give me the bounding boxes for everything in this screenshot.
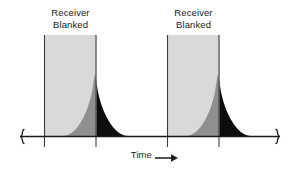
receiver-blanked-label-1-line2: Blanked <box>44 19 97 31</box>
receiver-blanked-label-1-line1: Receiver <box>44 7 97 19</box>
receiver-blanked-label-2-line1: Receiver <box>167 7 220 19</box>
time-axis-label: Time <box>108 149 152 161</box>
receiver-blanking-figure: Receiver Blanked Receiver Blanked Time <box>0 0 297 176</box>
time-arrow-icon <box>155 154 178 161</box>
receiver-blanked-label-1: Receiver Blanked <box>44 7 97 30</box>
receiver-blanked-label-2-line2: Blanked <box>167 19 220 31</box>
receiver-blanked-label-2: Receiver Blanked <box>167 7 220 30</box>
